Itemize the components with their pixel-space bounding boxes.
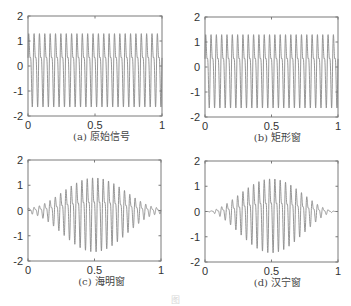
signal-line <box>28 34 162 107</box>
y-tick-label: 0 <box>194 206 200 218</box>
y-tick-label: 2 <box>17 10 23 22</box>
chart-rectangular-window: 210-1-200.51 <box>176 0 351 130</box>
panel-rectangular-window: 210-1-200.51 (b) 矩形窗 <box>176 0 351 145</box>
y-tick-label: -2 <box>13 110 23 122</box>
y-tick-label: 0 <box>17 205 23 217</box>
signal-line <box>28 178 161 252</box>
chart-hamming-window: 210-1-200.51 <box>0 145 175 275</box>
panel-hanning-window: 210-1-200.51 (d) 汉宁窗 <box>176 145 351 290</box>
signal-line <box>205 179 338 253</box>
caption-hamming-window: (c) 海明窗 <box>14 273 189 288</box>
y-tick-label: 2 <box>194 11 200 23</box>
y-tick-label: 2 <box>194 155 200 167</box>
y-tick-label: 2 <box>17 154 23 166</box>
y-tick-label: 1 <box>194 36 200 48</box>
y-tick-label: -1 <box>13 85 23 97</box>
y-tick-label: -2 <box>190 256 200 268</box>
y-tick-label: 0 <box>17 60 23 72</box>
signal-line <box>205 35 338 108</box>
figure-caption: 图 <box>0 293 351 306</box>
y-tick-label: -1 <box>13 230 23 242</box>
caption-original-signal: (a) 原始信号 <box>14 128 189 143</box>
y-tick-label: -2 <box>13 255 23 267</box>
caption-hanning-window: (d) 汉宁窗 <box>190 274 351 289</box>
y-tick-label: -1 <box>190 86 200 98</box>
y-tick-label: 1 <box>17 35 23 47</box>
y-tick-label: -1 <box>190 231 200 243</box>
chart-original-signal: 210-1-200.51 <box>0 0 175 130</box>
chart-hanning-window: 210-1-200.51 <box>176 145 351 275</box>
panel-hamming-window: 210-1-200.51 (c) 海明窗 <box>0 145 175 290</box>
y-tick-label: 1 <box>17 179 23 191</box>
y-tick-label: 1 <box>194 180 200 192</box>
y-tick-label: -2 <box>190 111 200 123</box>
y-tick-label: 0 <box>194 61 200 73</box>
caption-rectangular-window: (b) 矩形窗 <box>190 129 351 144</box>
panel-original-signal: 210-1-200.51 (a) 原始信号 <box>0 0 175 145</box>
